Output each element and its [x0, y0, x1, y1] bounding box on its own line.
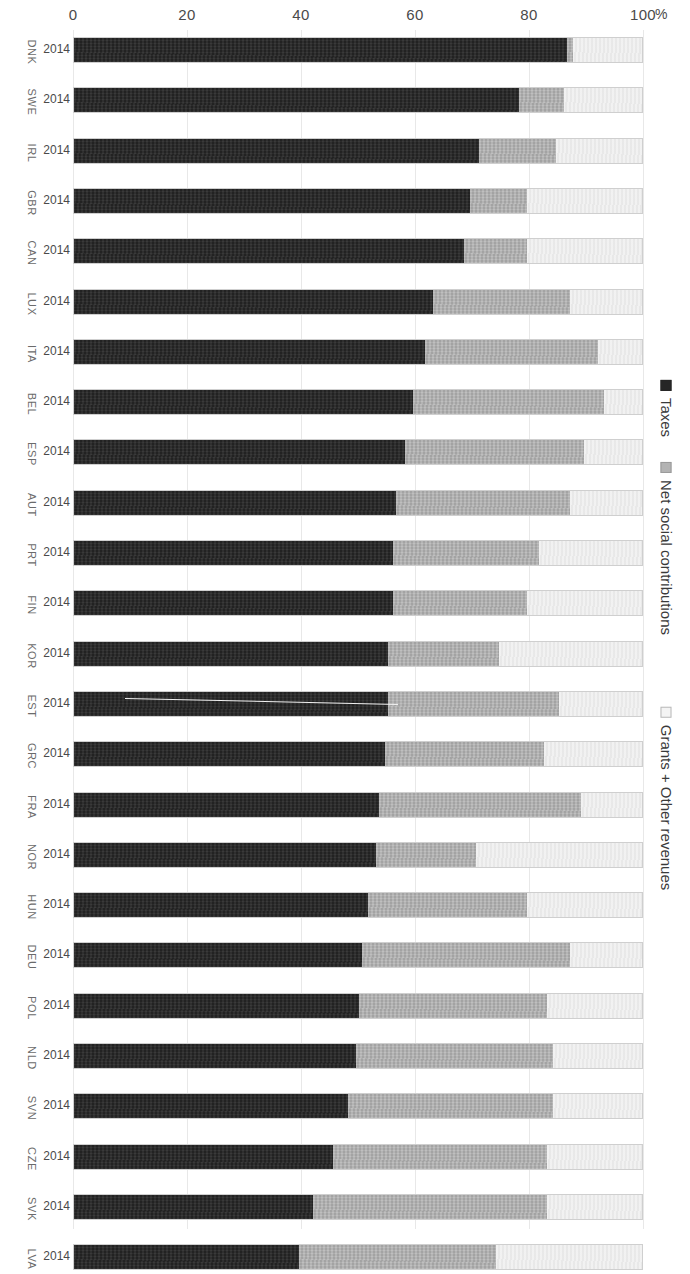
bar-row: CAN2014: [0, 233, 690, 283]
segment-grants-other-revenues: [604, 390, 643, 414]
year-label: 2014: [36, 696, 70, 710]
stacked-bar-esp[interactable]: [73, 439, 643, 465]
stacked-bar-pol[interactable]: [73, 993, 643, 1019]
year-label: 2014: [36, 595, 70, 609]
segment-grants-other-revenues: [527, 189, 643, 213]
stacked-bar-nld[interactable]: [73, 1043, 643, 1069]
year-label: 2014: [36, 495, 70, 509]
segment-taxes: [74, 943, 362, 967]
bar-row: ESP2014: [0, 434, 690, 484]
legend-item-grants-other-revenues[interactable]: Grants + Other revenues: [658, 707, 675, 891]
segment-taxes: [74, 591, 393, 615]
bar-row: KOR2014: [0, 636, 690, 686]
segment-taxes: [74, 1094, 348, 1118]
year-label: 2014: [36, 1048, 70, 1062]
year-label: 2014: [36, 344, 70, 358]
stacked-bar-swe[interactable]: [73, 87, 643, 113]
year-label: 2014: [36, 1149, 70, 1163]
stacked-bar-irl[interactable]: [73, 138, 643, 164]
segment-net-social-contributions: [393, 591, 527, 615]
segment-grants-other-revenues: [547, 994, 643, 1018]
year-label: 2014: [36, 1098, 70, 1112]
segment-taxes: [74, 1245, 299, 1269]
stacked-bar-aut[interactable]: [73, 490, 643, 516]
segment-taxes: [74, 491, 396, 515]
year-label: 2014: [36, 797, 70, 811]
legend-swatch-icon: [661, 380, 672, 391]
bar-row: FRA2014: [0, 787, 690, 837]
stacked-bar-est[interactable]: [73, 691, 643, 717]
stacked-bar-grc[interactable]: [73, 741, 643, 767]
bar-row: CZE2014: [0, 1139, 690, 1189]
stacked-bar-nor[interactable]: [73, 842, 643, 868]
stacked-bar-bel[interactable]: [73, 389, 643, 415]
stacked-bar-ita[interactable]: [73, 339, 643, 365]
segment-grants-other-revenues: [581, 793, 643, 817]
bar-row: GBR2014: [0, 183, 690, 233]
bar-row: LVA2014: [0, 1239, 690, 1274]
segment-net-social-contributions: [405, 440, 585, 464]
x-axis-tick-60: 60: [406, 6, 423, 23]
plot-area: DNK2014SWE2014IRL2014GBR2014CAN2014LUX20…: [0, 30, 690, 1257]
stacked-bar-svk[interactable]: [73, 1194, 643, 1220]
x-axis: 020406080100 %: [0, 0, 690, 30]
stacked-bar-lux[interactable]: [73, 289, 643, 315]
bar-row: GRC2014: [0, 736, 690, 786]
stacked-bar-fra[interactable]: [73, 792, 643, 818]
segment-taxes: [74, 1145, 333, 1169]
stacked-bar-fin[interactable]: [73, 590, 643, 616]
segment-taxes: [74, 290, 433, 314]
year-label: 2014: [36, 444, 70, 458]
segment-net-social-contributions: [362, 943, 570, 967]
segment-grants-other-revenues: [553, 1094, 643, 1118]
stacked-bar-prt[interactable]: [73, 540, 643, 566]
segment-net-social-contributions: [333, 1145, 547, 1169]
bar-row: PRT2014: [0, 535, 690, 585]
stacked-bar-hun[interactable]: [73, 892, 643, 918]
segment-net-social-contributions: [479, 139, 556, 163]
year-label: 2014: [36, 294, 70, 308]
segment-net-social-contributions: [388, 692, 559, 716]
year-label: 2014: [36, 42, 70, 56]
segment-taxes: [74, 1044, 356, 1068]
segment-taxes: [74, 692, 388, 716]
segment-grants-other-revenues: [476, 843, 643, 867]
legend-item-net-social-contributions[interactable]: Net social contributions: [658, 462, 675, 635]
year-label: 2014: [36, 947, 70, 961]
legend-item-taxes[interactable]: Taxes: [658, 380, 675, 437]
stacked-bar-gbr[interactable]: [73, 188, 643, 214]
year-label: 2014: [36, 646, 70, 660]
segment-grants-other-revenues: [544, 742, 643, 766]
stacked-bar-can[interactable]: [73, 238, 643, 264]
bar-row: POL2014: [0, 988, 690, 1038]
segment-taxes: [74, 742, 385, 766]
segment-taxes: [74, 793, 379, 817]
stacked-bar-cze[interactable]: [73, 1144, 643, 1170]
year-label: 2014: [36, 1249, 70, 1263]
segment-net-social-contributions: [519, 88, 565, 112]
segment-grants-other-revenues: [553, 1044, 643, 1068]
stacked-bar-deu[interactable]: [73, 942, 643, 968]
stacked-bar-lva[interactable]: [73, 1244, 643, 1270]
segment-taxes: [74, 390, 413, 414]
bar-row: DNK2014: [0, 32, 690, 82]
stacked-bar-dnk[interactable]: [73, 37, 643, 63]
segment-grants-other-revenues: [570, 943, 643, 967]
bar-row: DEU2014: [0, 937, 690, 987]
chart-legend: TaxesNet social contributionsGrants + Ot…: [642, 0, 690, 1257]
year-label: 2014: [36, 243, 70, 257]
segment-net-social-contributions: [413, 390, 604, 414]
segment-net-social-contributions: [368, 893, 528, 917]
segment-net-social-contributions: [376, 843, 476, 867]
segment-grants-other-revenues: [584, 440, 643, 464]
x-axis-tick-80: 80: [520, 6, 537, 23]
segment-net-social-contributions: [464, 239, 527, 263]
year-label: 2014: [36, 847, 70, 861]
year-label: 2014: [36, 897, 70, 911]
segment-taxes: [74, 994, 359, 1018]
stacked-bar-svn[interactable]: [73, 1093, 643, 1119]
bar-row: EST2014: [0, 686, 690, 736]
stacked-bar-kor[interactable]: [73, 641, 643, 667]
bar-row: ITA2014: [0, 334, 690, 384]
